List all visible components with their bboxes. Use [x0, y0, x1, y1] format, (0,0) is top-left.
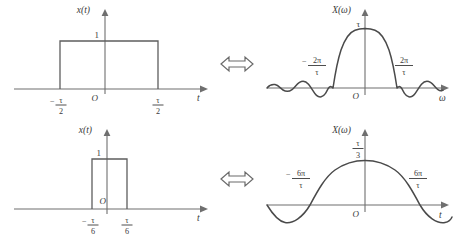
zero-right-denominator: τ: [416, 181, 420, 190]
rectangular-pulse-trace: [60, 41, 158, 89]
tick-right-numerator: τ: [125, 216, 129, 225]
x-axis-arrowhead: [200, 86, 208, 93]
y-axis-arrowhead: [362, 9, 369, 16]
tick-label-left: − τ 2: [50, 96, 67, 116]
x-axis-arrowhead: [200, 206, 208, 213]
double-headed-arrow-bottom: [220, 169, 254, 189]
tick-right-numerator: τ: [156, 96, 160, 105]
figure-root: x(t) t 1 O − τ 2 τ 2 X(ω) ω τ O −: [0, 0, 464, 239]
zero-left-sign: −: [302, 57, 307, 66]
y-axis-arrowhead: [102, 9, 109, 16]
tick-label-left: − τ 6: [82, 216, 99, 236]
origin-label: O: [92, 93, 99, 103]
tick-left-numerator: τ: [91, 216, 95, 225]
y-axis-label: X(ω): [331, 5, 351, 16]
y-axis-arrowhead: [362, 129, 369, 136]
panel-top-right-frequency-domain: X(ω) ω τ O − 2π τ 2π τ: [255, 0, 464, 120]
x-axis-label: t: [197, 93, 200, 103]
tick-right-denominator: 2: [156, 107, 160, 116]
double-headed-arrow-icon: [220, 54, 254, 74]
peak-value-label: τ: [356, 19, 360, 29]
tick-left-denominator: 2: [59, 107, 63, 116]
zero-left-numerator: 6π: [297, 169, 306, 178]
zero-right-numerator: 6π: [414, 169, 423, 178]
y-axis-label: x(t): [78, 125, 92, 136]
panel-top-left-time-domain: x(t) t 1 O − τ 2 τ 2: [0, 0, 232, 120]
y-axis-label: X(ω): [331, 125, 351, 136]
panel-bottom-left-time-domain: x(t) t 1 O − τ 6 τ 6: [0, 119, 232, 239]
double-headed-arrow-top: [220, 54, 254, 74]
zero-crossing-label-right: 6π τ: [409, 169, 427, 190]
panel-bottom-right-frequency-domain: X(ω) t O τ 3 − 6π τ 6π τ: [255, 119, 464, 239]
x-axis-label: t: [439, 210, 442, 220]
zero-left-denominator: τ: [299, 181, 303, 190]
tick-left-sign: −: [82, 217, 87, 226]
tick-left-numerator: τ: [59, 96, 63, 105]
amplitude-label: 1: [95, 30, 100, 40]
zero-left-sign: −: [286, 170, 291, 179]
zero-crossing-label-left: − 6π τ: [286, 169, 310, 190]
zero-crossing-label-right: 2π τ: [395, 56, 413, 77]
x-axis-arrowhead: [441, 202, 449, 209]
y-axis-arrowhead: [104, 129, 111, 136]
x-axis-label: t: [197, 213, 200, 223]
tick-left-sign: −: [50, 97, 55, 106]
zero-right-numerator: 2π: [400, 56, 409, 65]
sinc-curve-trace: [267, 161, 452, 223]
x-axis-label: ω: [439, 93, 446, 103]
zero-left-denominator: τ: [315, 68, 319, 77]
double-headed-arrow-icon: [220, 169, 254, 189]
tick-label-right: τ 2: [153, 96, 164, 116]
zero-right-denominator: τ: [402, 68, 406, 77]
tick-left-denominator: 6: [91, 227, 95, 236]
rectangular-pulse-trace: [92, 159, 127, 209]
zero-left-numerator: 2π: [313, 56, 322, 65]
tick-right-denominator: 6: [125, 227, 129, 236]
y-axis-label: x(t): [76, 5, 90, 16]
peak-value-label: τ 3: [353, 139, 364, 160]
peak-numerator: τ: [356, 139, 360, 148]
origin-label: O: [353, 209, 360, 219]
sinc-curve-trace: [267, 29, 443, 97]
origin-label: O: [100, 196, 107, 206]
zero-crossing-label-left: − 2π τ: [302, 56, 326, 77]
origin-label: O: [353, 91, 360, 101]
tick-label-right: τ 6: [122, 216, 133, 236]
amplitude-label: 1: [97, 148, 102, 158]
peak-denominator: 3: [356, 151, 360, 160]
